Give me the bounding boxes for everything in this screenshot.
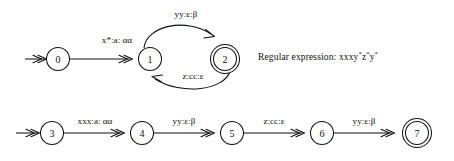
transition-label-0-to-1: x*:a: αα bbox=[102, 35, 132, 45]
state-6-label: 6 bbox=[320, 128, 325, 139]
regex-symbol: xxxy bbox=[339, 51, 359, 62]
regular-expression-annotation: Regular expression: xxxy*z*y* bbox=[258, 51, 378, 62]
automata-figure: 0 1 bbox=[0, 0, 454, 161]
transition-5-to-6[interactable] bbox=[244, 129, 305, 137]
state-3-label: 3 bbox=[50, 128, 55, 139]
regex-kleene-star: * bbox=[375, 50, 378, 57]
transition-1-to-2[interactable] bbox=[144, 25, 215, 48]
regex-body: xxxy*z*y* bbox=[339, 51, 378, 62]
state-7-label: 7 bbox=[415, 128, 420, 139]
state-1-label: 1 bbox=[148, 54, 153, 65]
transition-label-4-to-5: yy:ε:β bbox=[173, 116, 196, 126]
transition-label-5-to-6: z:cc:ε bbox=[263, 116, 284, 126]
state-0-label: 0 bbox=[56, 54, 61, 65]
transition-6-to-7[interactable] bbox=[334, 129, 395, 137]
state-6[interactable]: 6 bbox=[311, 122, 334, 145]
state-7[interactable]: 7 bbox=[403, 119, 432, 148]
state-5-label: 5 bbox=[230, 128, 235, 139]
state-4[interactable]: 4 bbox=[131, 122, 154, 145]
state-2[interactable]: 2 bbox=[211, 45, 240, 74]
state-1[interactable]: 1 bbox=[139, 48, 162, 71]
transition-0-to-1[interactable] bbox=[70, 55, 133, 63]
transition-label-6-to-7: yy:ε:β bbox=[353, 116, 376, 126]
diagram-canvas: 0 1 bbox=[0, 0, 454, 161]
top-automaton: 0 1 bbox=[25, 9, 240, 89]
start-arrow-state-0 bbox=[25, 55, 47, 63]
state-4-label: 4 bbox=[140, 128, 145, 139]
state-3[interactable]: 3 bbox=[41, 122, 64, 145]
transition-3-to-4[interactable] bbox=[64, 129, 125, 137]
transition-label-3-to-4: xxx:a: αα bbox=[78, 116, 113, 126]
transition-label-1-to-2: yy:ε:β bbox=[175, 9, 198, 19]
transition-label-2-to-1: z:cc:ε bbox=[182, 71, 203, 81]
state-0[interactable]: 0 bbox=[47, 48, 70, 71]
state-5[interactable]: 5 bbox=[221, 122, 244, 145]
transition-4-to-5[interactable] bbox=[154, 129, 215, 137]
state-2-label: 2 bbox=[223, 54, 228, 65]
regex-prefix-label: Regular expression: bbox=[258, 51, 339, 62]
bottom-automaton: 3 4 5 bbox=[16, 116, 432, 148]
start-arrow-state-3 bbox=[16, 129, 40, 137]
